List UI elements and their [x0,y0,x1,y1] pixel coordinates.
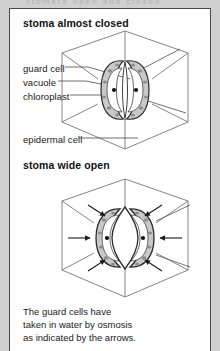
guard-cell-left-open [96,209,120,267]
osmosis-arrows [68,205,182,271]
arrow-bottom-left [88,260,105,271]
chloroplasts-closed [102,64,148,117]
vacuole-right-open [131,215,148,261]
caption-line-3: as indicated by the arrows. [23,331,136,344]
figure-caption: The guard cells have taken in water by o… [23,305,136,345]
clipped-header-text: stomata open and closed [0,0,220,7]
guard-cell-right-open [130,209,154,267]
panel-title-open: stoma wide open [23,159,110,171]
chloroplasts-open [98,212,152,266]
nuclei-closed [112,88,138,92]
vacuole-left-open [102,215,119,261]
nuclei-open [105,236,145,240]
label-epidermal-cell: epidermal cell [23,134,82,145]
stomata-drawing [10,9,211,351]
guard-cell-left [101,61,124,120]
vacuole-left [107,68,122,112]
stoma-closed [101,61,149,120]
caption-line-2: taken in water by osmosis [23,318,136,331]
label-chloroplast: chloroplast [23,91,70,102]
caption-line-1: The guard cells have [23,305,136,318]
vacuole-right [128,68,143,112]
stoma-open [96,207,154,269]
leader-lines-open [156,205,190,267]
epidermal-cell-hexagon-open [62,179,188,297]
arrow-bottom-right [145,260,162,271]
guard-cell-right [127,61,150,120]
stoma-pore-closed [123,62,128,118]
stoma-pore-open [112,207,138,269]
leader-lines-closed [58,49,186,138]
panel-title-closed: stoma almost closed [23,17,129,29]
arrow-top-left [88,205,105,216]
label-vacuole: vacuole [23,77,56,88]
label-guard-cell: guard cell [23,63,65,74]
epidermal-cell-hexagon-closed [62,31,188,149]
figure-page: stomata open and closed stoma almost clo… [0,0,220,351]
figure-card: stoma almost closed guard cell vacuole c… [9,8,211,351]
arrow-top-right [145,205,162,216]
